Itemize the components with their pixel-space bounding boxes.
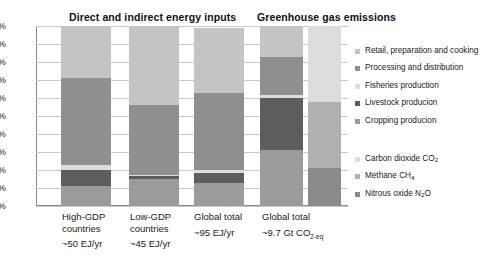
legend-swatch-icon <box>355 119 360 124</box>
bar-segment <box>308 102 341 169</box>
x-label-line1: Low-GDP <box>130 211 171 223</box>
x-label-line1: Global total <box>194 211 242 223</box>
bar-segment <box>260 95 303 98</box>
legend-swatch-icon <box>355 157 360 162</box>
y-tick-label: 60% <box>0 93 6 103</box>
legend-swatch-icon <box>355 84 360 89</box>
y-tick-label: 20% <box>0 165 6 175</box>
y-tick-label: 10% <box>0 183 6 193</box>
legend-swatch-icon <box>355 49 360 54</box>
bar-segment <box>194 173 244 183</box>
bar-segment <box>61 165 111 170</box>
bar-segment <box>129 26 179 105</box>
bar-energy-1 <box>129 26 179 206</box>
chart-figure: Direct and indirect energy inputs Greenh… <box>0 0 484 266</box>
y-tick-label: 30% <box>0 147 6 157</box>
bar-energy-0 <box>61 26 111 206</box>
legend-swatch-icon <box>355 174 360 179</box>
bar-segment <box>308 26 341 102</box>
plot-area: 100%90%80%70%60%50%40%30%20%10%0% <box>36 26 348 206</box>
bar-segment <box>308 168 341 206</box>
legend-swatch-icon <box>355 66 360 71</box>
legend-sector-item[interactable]: Cropping producion <box>355 114 478 128</box>
panel-title-energy: Direct and indirect energy inputs <box>69 11 236 23</box>
y-tick-label: 90% <box>0 39 6 49</box>
x-label-line1: Global total <box>262 211 323 223</box>
bar-ghg-gas <box>308 26 341 206</box>
x-axis-label-0: High-GDPcountries~50 EJ/yr <box>62 211 105 250</box>
legend-label: Livestock producion <box>365 99 437 107</box>
y-tick-label: 70% <box>0 75 6 85</box>
legend-label: Methane CH4 <box>365 172 414 180</box>
bar-segment <box>61 186 111 206</box>
legend-sector-item[interactable]: Livestock producion <box>355 97 478 111</box>
legend-label: Retail, preparation and cooking <box>365 47 478 55</box>
legend-gas-item[interactable]: Methane CH4 <box>355 170 438 184</box>
bar-segment <box>61 170 111 186</box>
bar-segment <box>260 150 303 206</box>
x-axis-label-1: Low-GDPcountries~45 EJ/yr <box>130 211 171 250</box>
legend-gas-item[interactable]: Nitrous oxide N2O <box>355 187 438 201</box>
x-label-value: ~9.7 Gt CO2-eq <box>262 227 323 242</box>
bar-segment <box>61 78 111 164</box>
bar-segment <box>61 26 111 78</box>
bar-segment <box>260 26 303 57</box>
bar-segment <box>260 57 303 96</box>
y-tick-label: 0% <box>0 201 6 211</box>
legend-label: Carbon dioxide CO2 <box>365 155 438 163</box>
legend-gas-item[interactable]: Carbon dioxide CO2 <box>355 152 438 166</box>
x-label-line2: countries <box>62 223 105 235</box>
x-label-line2: countries <box>130 223 171 235</box>
bar-segment <box>194 170 244 173</box>
bar-segment <box>194 93 244 170</box>
x-axis-label-3: Global total~9.7 Gt CO2-eq <box>262 211 323 242</box>
legend-gas: Carbon dioxide CO2Methane CH4Nitrous oxi… <box>355 152 438 205</box>
legend-sector-item[interactable]: Retail, preparation and cooking <box>355 44 478 58</box>
legend-sector: Retail, preparation and cookingProcessin… <box>355 44 478 132</box>
legend-label: Nitrous oxide N2O <box>365 190 431 198</box>
legend-sector-item[interactable]: Processing and distribution <box>355 62 478 76</box>
x-label-value: ~45 EJ/yr <box>130 238 171 250</box>
bar-segment <box>129 175 179 179</box>
bar-energy-2 <box>194 26 244 206</box>
legend-sector-item[interactable]: Fisheries production <box>355 79 478 93</box>
bar-segment <box>194 28 244 93</box>
legend-swatch-icon <box>355 101 360 106</box>
y-tick-label: 50% <box>0 111 6 121</box>
y-tick-label: 100% <box>0 21 6 31</box>
x-label-value: ~50 EJ/yr <box>62 238 105 250</box>
bar-segment <box>129 105 179 174</box>
y-tick-label: 80% <box>0 57 6 67</box>
y-tick-label: 40% <box>0 129 6 139</box>
bar-ghg-sector <box>260 26 303 206</box>
bar-segment <box>129 175 179 176</box>
legend-label: Cropping producion <box>365 117 436 125</box>
x-label-line1: High-GDP <box>62 211 105 223</box>
bar-segment <box>194 183 244 206</box>
bar-segment <box>260 98 303 150</box>
x-axis-label-2: Global total~95 EJ/yr <box>194 211 242 238</box>
legend-label: Processing and distribution <box>365 64 463 72</box>
x-label-value: ~95 EJ/yr <box>194 227 242 239</box>
gridline-0 <box>36 206 348 207</box>
legend-swatch-icon <box>355 192 360 197</box>
panel-title-ghg: Greenhouse gas emissions <box>257 11 396 23</box>
bar-segment <box>129 179 179 206</box>
legend-label: Fisheries production <box>365 82 439 90</box>
